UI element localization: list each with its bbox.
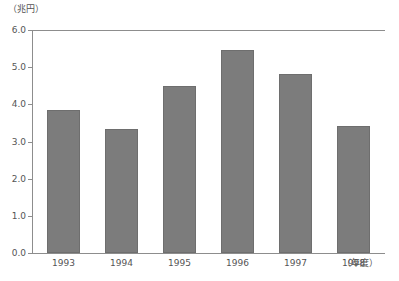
y-tick-mark	[28, 253, 32, 254]
x-label-1995: 1995	[168, 258, 191, 268]
bar-1993	[47, 110, 80, 253]
bar-chart: （兆円） 0.01.02.03.04.05.06.0 1993199419951…	[0, 0, 399, 281]
y-tick-label: 4.0	[12, 100, 26, 109]
y-tick-mark	[28, 67, 32, 68]
y-tick-label: 5.0	[12, 63, 26, 72]
x-label-1996: 1996	[226, 258, 249, 268]
bar-1995	[163, 86, 196, 253]
bar-1998	[337, 126, 370, 253]
y-tick-label: 2.0	[12, 174, 26, 183]
bar-1997	[279, 74, 312, 253]
y-tick-mark	[28, 30, 32, 31]
x-label-1997: 1997	[284, 258, 307, 268]
y-tick-mark	[28, 179, 32, 180]
y-tick-label: 6.0	[12, 26, 26, 35]
x-axis-line	[32, 253, 385, 254]
y-axis-line	[32, 30, 33, 254]
y-tick-label: 3.0	[12, 137, 26, 146]
y-tick-mark	[28, 142, 32, 143]
plot-area: 0.01.02.03.04.05.06.0 199319941995199619…	[32, 30, 385, 254]
y-axis-unit-label: （兆円）	[8, 4, 44, 15]
x-label-1993: 1993	[52, 258, 75, 268]
bar-1996	[221, 50, 254, 253]
y-tick-mark	[28, 216, 32, 217]
y-tick-mark	[28, 104, 32, 105]
bar-1994	[105, 129, 138, 254]
y-tick-label: 1.0	[12, 211, 26, 220]
chart-top-rule	[32, 30, 385, 31]
x-axis-unit-label: （年度）	[342, 258, 378, 268]
x-label-1994: 1994	[110, 258, 133, 268]
y-tick-label: 0.0	[12, 249, 26, 258]
